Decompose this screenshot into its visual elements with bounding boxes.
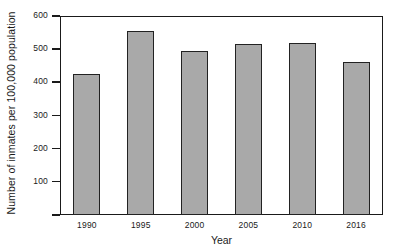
y-axis-tick-label: 400 bbox=[0, 76, 48, 86]
bar-2005 bbox=[235, 44, 262, 215]
y-axis-tick-label: 600 bbox=[0, 10, 48, 20]
bar-2000 bbox=[181, 51, 208, 215]
y-axis-tick-mark bbox=[52, 214, 60, 216]
x-axis-title: Year bbox=[60, 234, 383, 246]
bar-chart-screenshot: Number of inmates per 100,000 population… bbox=[0, 0, 395, 252]
y-axis-tick-mark bbox=[52, 81, 60, 83]
y-axis-tick-mark bbox=[52, 15, 60, 17]
y-axis-tick-mark bbox=[52, 48, 60, 50]
y-axis-tick-mark bbox=[52, 115, 60, 117]
y-axis-tick-mark bbox=[52, 181, 60, 183]
x-axis-tick-label: 1990 bbox=[57, 220, 117, 230]
x-axis-tick-label: 2005 bbox=[218, 220, 278, 230]
bar-1990 bbox=[73, 74, 100, 215]
y-axis-tick-label: 500 bbox=[0, 43, 48, 53]
x-axis-tick-label: 2010 bbox=[272, 220, 332, 230]
y-axis-tick-label: 300 bbox=[0, 110, 48, 120]
bar-2016 bbox=[343, 62, 370, 215]
plot-area bbox=[60, 16, 383, 215]
x-axis-tick-label: 2000 bbox=[165, 220, 225, 230]
x-axis-tick-label: 2016 bbox=[326, 220, 386, 230]
y-axis-tick-mark bbox=[52, 148, 60, 150]
y-axis-tick-label: 100 bbox=[0, 176, 48, 186]
bar-1995 bbox=[127, 31, 154, 215]
x-axis-tick-label: 1995 bbox=[111, 220, 171, 230]
bar-2010 bbox=[289, 43, 316, 215]
y-axis-tick-label: 200 bbox=[0, 143, 48, 153]
